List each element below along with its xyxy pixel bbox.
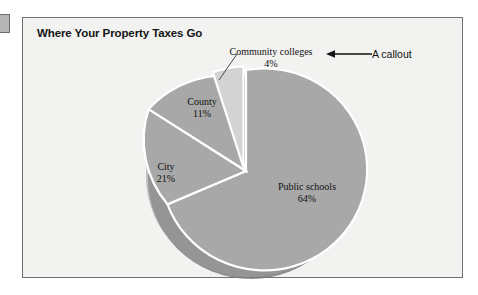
pie-label-county: County 11% — [163, 96, 241, 120]
pie-label-county-value: 11% — [163, 108, 241, 120]
pie-label-public-schools: Public schools 64% — [261, 181, 353, 205]
pie-label-community-colleges: Community colleges 4% — [211, 46, 331, 70]
pie-label-county-name: County — [187, 96, 216, 107]
pie-label-city-value: 21% — [133, 173, 199, 185]
figure-frame: Where Your Property Taxes Go — [22, 17, 463, 278]
callout-arrow-icon — [326, 47, 372, 61]
corner-marker-square — [0, 14, 10, 33]
pie-label-city: City 21% — [133, 161, 199, 185]
pie-label-community-colleges-value: 4% — [211, 58, 331, 70]
callout-label: A callout — [372, 48, 412, 60]
pie-label-public-schools-value: 64% — [261, 193, 353, 205]
pie-label-community-colleges-name: Community colleges — [229, 46, 312, 57]
pie-label-public-schools-name: Public schools — [278, 181, 336, 192]
pie-label-city-name: City — [157, 161, 174, 172]
